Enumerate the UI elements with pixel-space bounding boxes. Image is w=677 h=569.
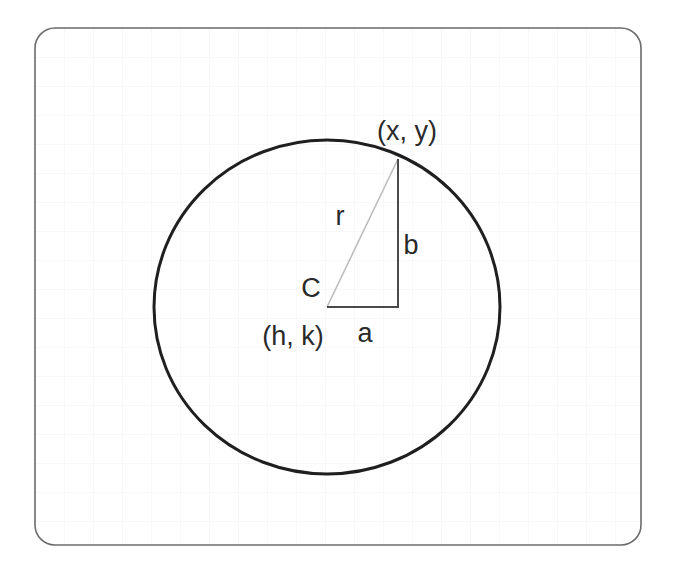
center-name-label: C [301,273,321,303]
radius-label: r [336,201,345,231]
horizontal-leg-label: a [357,318,373,348]
background-grid [35,28,641,545]
center-coords-label: (h, k) [262,321,324,351]
point-label: (x, y) [377,116,437,146]
vertical-leg-label: b [403,230,418,260]
circle-equation-diagram: (x, y) r b C (h, k) a [0,0,677,569]
